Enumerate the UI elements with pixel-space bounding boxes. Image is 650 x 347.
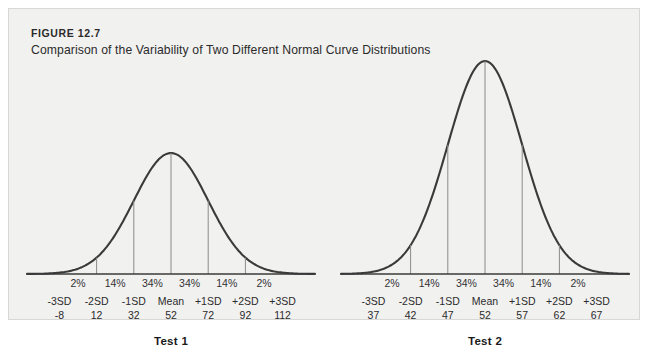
score-value-label: 112 bbox=[263, 309, 303, 321]
percent-band-label: 34% bbox=[448, 275, 485, 292]
percent-band-row-test-1: 2%14%34%34%14%2% bbox=[21, 275, 321, 292]
percent-band-label: 2% bbox=[245, 275, 282, 292]
sd-axis-label: -3SD bbox=[353, 295, 393, 307]
percent-band-label: 34% bbox=[485, 275, 522, 292]
sd-axis-label: Mean bbox=[465, 295, 505, 307]
sd-axis-label: Mean bbox=[151, 295, 191, 307]
percent-band-label: 14% bbox=[208, 275, 245, 292]
chart-title-test-2: Test 2 bbox=[335, 335, 635, 347]
score-value-label: 42 bbox=[391, 309, 431, 321]
score-value-label: -8 bbox=[39, 309, 79, 321]
percent-band-label: 2% bbox=[373, 275, 410, 292]
score-value-label: 62 bbox=[539, 309, 579, 321]
percent-band-label: 14% bbox=[522, 275, 559, 292]
sd-axis-label: -3SD bbox=[39, 295, 79, 307]
figure-number: FIGURE 12.7 bbox=[31, 27, 591, 40]
score-value-label: 52 bbox=[151, 309, 191, 321]
sd-axis-label: +1SD bbox=[188, 295, 228, 307]
percent-band-label: 34% bbox=[134, 275, 171, 292]
score-value-label: 37 bbox=[353, 309, 393, 321]
percent-band-label: 2% bbox=[559, 275, 596, 292]
score-value-label: 12 bbox=[77, 309, 117, 321]
score-value-label: 47 bbox=[428, 309, 468, 321]
chart-title-test-1: Test 1 bbox=[21, 335, 321, 347]
score-value-row-test-2: 37424752576267 bbox=[335, 309, 635, 323]
sd-axis-label: +1SD bbox=[502, 295, 542, 307]
score-value-label: 52 bbox=[465, 309, 505, 321]
score-value-label: 67 bbox=[577, 309, 617, 321]
sd-axis-label: +3SD bbox=[263, 295, 303, 307]
score-value-label: 72 bbox=[188, 309, 228, 321]
score-value-label: 57 bbox=[502, 309, 542, 321]
percent-band-row-test-2: 2%14%34%34%14%2% bbox=[335, 275, 635, 292]
sd-axis-label: +2SD bbox=[539, 295, 579, 307]
percent-band-label: 2% bbox=[59, 275, 96, 292]
chart-test-1: 2%14%34%34%14%2% -3SD-2SD-1SDMean+1SD+2S… bbox=[21, 49, 321, 321]
sd-label-row-test-1: -3SD-2SD-1SDMean+1SD+2SD+3SD bbox=[21, 295, 321, 309]
sd-axis-label: -1SD bbox=[428, 295, 468, 307]
score-value-row-test-1: -81232527292112 bbox=[21, 309, 321, 323]
percent-band-label: 14% bbox=[97, 275, 134, 292]
percent-band-label: 14% bbox=[411, 275, 448, 292]
sd-label-row-test-2: -3SD-2SD-1SDMean+1SD+2SD+3SD bbox=[335, 295, 635, 309]
normal-curve-test-1 bbox=[21, 49, 321, 275]
sd-axis-label: -2SD bbox=[391, 295, 431, 307]
chart-test-2: 2%14%34%34%14%2% -3SD-2SD-1SDMean+1SD+2S… bbox=[335, 49, 635, 321]
score-value-label: 92 bbox=[225, 309, 265, 321]
normal-curve-test-2 bbox=[335, 49, 635, 275]
sd-axis-label: -2SD bbox=[77, 295, 117, 307]
sd-axis-label: +2SD bbox=[225, 295, 265, 307]
score-value-label: 32 bbox=[114, 309, 154, 321]
sd-axis-label: -1SD bbox=[114, 295, 154, 307]
percent-band-label: 34% bbox=[171, 275, 208, 292]
sd-axis-label: +3SD bbox=[577, 295, 617, 307]
figure-panel: FIGURE 12.7 Comparison of the Variabilit… bbox=[8, 8, 640, 320]
